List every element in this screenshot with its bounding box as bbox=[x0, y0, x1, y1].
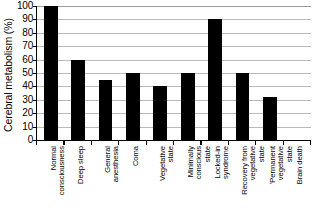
x-category-label: Brain death bbox=[283, 146, 310, 215]
y-tick-label: 100 bbox=[13, 1, 33, 11]
x-tick-mark bbox=[63, 141, 64, 145]
y-tick-label: 20 bbox=[13, 108, 33, 118]
x-tick-mark bbox=[173, 141, 174, 145]
x-category-label: Minimallyconsciousstate bbox=[173, 146, 200, 215]
bar bbox=[153, 86, 167, 140]
bar bbox=[71, 60, 85, 140]
y-axis-tick-labels: 1009080706050403020100 bbox=[13, 0, 33, 146]
x-category-label-text: Deep sleep bbox=[77, 146, 85, 184]
y-axis-title-text: Cerebral metabolism (%) bbox=[2, 18, 14, 132]
x-tick-mark bbox=[228, 141, 229, 145]
bar bbox=[99, 80, 113, 140]
x-axis-category-labels: NormalconsciousnessDeep sleepGeneralanes… bbox=[36, 146, 312, 215]
y-tick-label: 10 bbox=[13, 122, 33, 132]
x-category-label: Vegetativestate bbox=[146, 146, 173, 215]
y-tick-label: 40 bbox=[13, 81, 33, 91]
x-category-label: Locked-insyndrome bbox=[200, 146, 227, 215]
x-axis-tick-marks bbox=[36, 141, 312, 145]
x-category-label: Coma bbox=[118, 146, 145, 215]
bar bbox=[44, 6, 58, 140]
x-category-label: Generalanesthesia bbox=[91, 146, 118, 215]
x-category-label-line: Coma bbox=[132, 146, 140, 166]
bars-group bbox=[37, 6, 311, 140]
x-tick-mark bbox=[146, 141, 147, 145]
y-tick-label: 90 bbox=[13, 14, 33, 24]
y-tick-label: 50 bbox=[13, 68, 33, 78]
x-category-label-text: Brain death bbox=[296, 146, 304, 184]
x-category-label: Normalconsciousness bbox=[36, 146, 63, 215]
x-category-label: 'Permanentvegetativestate bbox=[255, 146, 282, 215]
x-category-label-line: Brain death bbox=[296, 146, 304, 184]
x-tick-mark bbox=[283, 141, 284, 145]
y-tick-label: 0 bbox=[13, 135, 33, 145]
y-tick-label: 80 bbox=[13, 28, 33, 38]
x-category-label-line: Deep sleep bbox=[77, 146, 85, 184]
x-tick-mark bbox=[200, 141, 201, 145]
y-tick-label: 70 bbox=[13, 41, 33, 51]
x-tick-mark bbox=[36, 141, 37, 145]
cerebral-metabolism-bar-chart: Cerebral metabolism (%) 1009080706050403… bbox=[0, 0, 315, 215]
x-tick-mark bbox=[118, 141, 119, 145]
bar bbox=[263, 97, 277, 140]
bar bbox=[181, 73, 195, 140]
x-category-label: Deep sleep bbox=[63, 146, 90, 215]
bar bbox=[236, 73, 250, 140]
y-tick-label: 60 bbox=[13, 55, 33, 65]
x-tick-mark bbox=[91, 141, 92, 145]
x-category-label-text: Coma bbox=[132, 146, 140, 166]
y-tick-label: 30 bbox=[13, 95, 33, 105]
bar bbox=[126, 73, 140, 140]
x-category-label: Recovery fromvegetativestate bbox=[228, 146, 255, 215]
x-tick-mark bbox=[310, 141, 311, 145]
plot-area bbox=[36, 6, 311, 141]
x-tick-mark bbox=[255, 141, 256, 145]
bar bbox=[208, 19, 222, 140]
